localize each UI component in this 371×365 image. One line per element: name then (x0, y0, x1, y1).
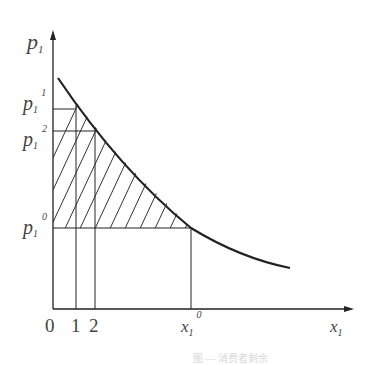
y-axis-arrow-icon (50, 30, 56, 40)
x-axis-arrow-icon (344, 306, 354, 312)
y-tick-p1-2: p12 (21, 123, 47, 151)
demand-curve (58, 78, 290, 268)
x-tick-x1-0: x10 (180, 309, 202, 338)
x-axis-label: x1 (329, 317, 343, 338)
demand-curve-diagram: p1 x1 p11 p12 p10 0 1 2 x10 图 — 消费者剩余 (0, 0, 371, 365)
y-tick-p1-0: p10 (21, 211, 47, 239)
x-tick-1: 1 (71, 315, 81, 336)
x-tick-0: 0 (45, 315, 55, 336)
figure-caption: 图 — 消费者剩余 (193, 352, 268, 364)
x-tick-2: 2 (89, 315, 99, 336)
y-axis-label: p1 (25, 29, 44, 55)
y-tick-p1-1: p11 (21, 87, 46, 115)
